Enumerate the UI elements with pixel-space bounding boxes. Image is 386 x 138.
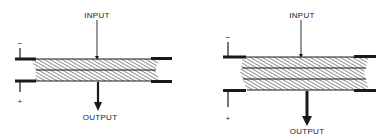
input-label: INPUT [84, 11, 110, 20]
diagram-single-layer: − + INPUT OUTPUT [15, 11, 172, 122]
electrode-right-top [151, 57, 172, 60]
electrode-right-bottom [354, 89, 376, 92]
electrode-left-top [223, 56, 246, 59]
diagram-double-layer: − + INPUT OUTPUT [223, 11, 376, 136]
electrode-left-top [15, 58, 36, 61]
electrode-left-bottom [15, 80, 36, 83]
minus-sign-icon: − [226, 33, 231, 42]
electrode-right-top [354, 55, 376, 58]
electrode-left-bottom [223, 89, 246, 92]
electrode-right-bottom [151, 80, 172, 83]
input-label: INPUT [289, 11, 315, 20]
plus-sign-icon: + [226, 114, 231, 123]
plus-sign-icon: + [18, 97, 23, 106]
piezo-layers [240, 57, 369, 90]
diagram-canvas: − + INPUT OUTPUT − + INPUT OUTPUT [0, 0, 386, 138]
output-label: OUTPUT [290, 127, 325, 136]
piezo-layers [31, 59, 160, 81]
minus-sign-icon: − [18, 39, 23, 48]
output-label: OUTPUT [83, 113, 118, 122]
